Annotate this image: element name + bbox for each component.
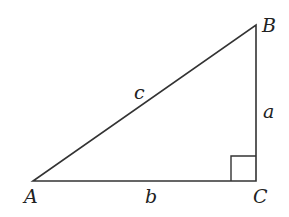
side-label-b: b xyxy=(145,185,157,207)
right-triangle-diagram: A b C B a c xyxy=(0,0,289,217)
triangle xyxy=(33,25,256,181)
side-label-a: a xyxy=(263,100,274,122)
vertex-label-b: B xyxy=(261,14,276,36)
side-label-c: c xyxy=(134,81,145,103)
vertex-label-a: A xyxy=(22,185,38,207)
right-angle-marker xyxy=(231,156,256,181)
vertex-label-c: C xyxy=(253,185,268,207)
